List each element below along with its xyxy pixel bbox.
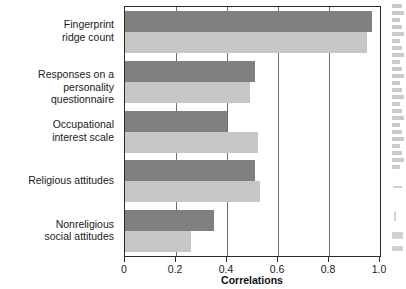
scan-artifact-mark <box>392 74 404 78</box>
bar <box>125 181 260 202</box>
x-axis-tick <box>175 256 176 262</box>
scan-edge-artifact <box>390 0 406 289</box>
scan-artifact-mark <box>392 144 400 148</box>
scan-artifact-mark <box>394 212 396 221</box>
scan-artifact-mark <box>392 165 400 169</box>
x-axis-tick <box>277 256 278 262</box>
bar <box>125 132 258 153</box>
scan-artifact-mark <box>392 39 400 43</box>
bar <box>125 82 250 103</box>
scan-artifact-mark <box>392 67 402 71</box>
bar <box>125 210 214 231</box>
category-label: Occupational interest scale <box>0 118 114 143</box>
scan-artifact-mark <box>392 53 404 57</box>
scan-artifact-mark <box>392 25 402 29</box>
category-label: Religious attitudes <box>0 174 114 187</box>
scan-artifact-mark <box>392 88 402 92</box>
scan-artifact-mark <box>393 186 402 188</box>
scan-artifact-mark <box>392 11 404 15</box>
x-axis-tick <box>328 256 329 262</box>
scan-artifact-mark <box>392 123 400 127</box>
scan-artifact-mark <box>392 137 404 141</box>
correlations-bar-chart: Fingerprint ridge countResponses on a pe… <box>0 0 406 289</box>
bar <box>125 231 191 252</box>
category-axis-labels: Fingerprint ridge countResponses on a pe… <box>0 0 120 255</box>
category-label: Nonreligious social attitudes <box>0 218 114 243</box>
scan-artifact-mark <box>392 95 404 99</box>
plot-area <box>124 6 381 257</box>
x-axis-tick <box>124 256 125 262</box>
category-label: Responses on a personality questionnaire <box>0 68 114 106</box>
scan-artifact-mark <box>392 102 400 106</box>
scan-artifact-mark <box>392 32 404 36</box>
x-axis-tick <box>379 256 380 262</box>
scan-artifact-mark <box>392 151 402 155</box>
bar <box>125 160 255 181</box>
scan-artifact-mark <box>392 158 404 162</box>
scan-artifact-mark <box>392 4 402 8</box>
plot-inner <box>125 7 380 256</box>
bar <box>125 11 372 32</box>
x-axis-title: Correlations <box>124 274 380 286</box>
scan-artifact-mark <box>392 116 404 120</box>
bar <box>125 61 255 82</box>
scan-artifact-mark <box>392 18 400 22</box>
scan-artifact-mark <box>392 232 403 239</box>
scan-artifact-mark <box>392 46 402 50</box>
scan-artifact-mark <box>392 81 400 85</box>
category-label: Fingerprint ridge count <box>0 18 114 43</box>
scan-artifact-mark <box>392 109 402 113</box>
bar <box>125 32 367 53</box>
scan-artifact-mark <box>392 246 403 251</box>
bar <box>125 111 227 132</box>
scan-artifact-mark <box>392 130 402 134</box>
x-axis-tick <box>226 256 227 262</box>
scan-artifact-mark <box>392 60 400 64</box>
